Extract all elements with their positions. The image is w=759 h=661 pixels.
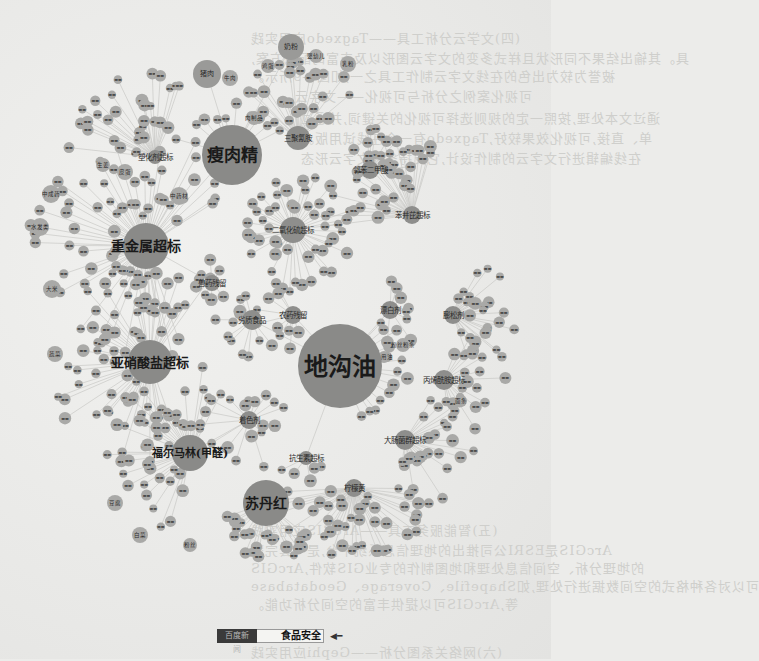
graph-leaf-label: ▬▬ (192, 155, 200, 160)
graph-leaf-label: ▬▬ (472, 301, 480, 306)
graph-leaf-label: ▬▬ (208, 441, 216, 446)
graph-leaf-label: ▬▬ (276, 128, 284, 133)
graph-leaf-label: ▬▬ (135, 300, 143, 305)
arrow-left-icon[interactable]: ◀━ (330, 629, 342, 643)
graph-leaf-label: ▬▬ (268, 343, 276, 348)
graph-leaf-label: ▬▬ (390, 195, 398, 200)
graph-leaf-label: ▬▬ (276, 333, 284, 338)
graph-leaf-label: ▬▬ (161, 425, 169, 430)
graph-leaf-label: ▬▬ (393, 328, 401, 333)
graph-leaf-label: ▬▬ (285, 328, 293, 333)
graph-leaf-label: ▬▬ (112, 109, 120, 114)
graph-leaf-label: ▬▬ (84, 127, 92, 132)
graph-leaf-label: ▬▬ (129, 397, 137, 402)
graph-leaf-label: ▬▬ (77, 326, 85, 331)
graph-leaf-label: ▬▬ (100, 181, 108, 186)
graph-leaf-label: ▬▬ (262, 393, 270, 398)
graph-leaf-label: ▬▬ (510, 327, 518, 332)
graph-leaf-label: ▬▬ (455, 296, 463, 301)
graph-leaf-label: ▬▬ (124, 373, 132, 378)
graph-leaf-label: ▬▬ (193, 122, 201, 127)
graph-leaf-label: ▬▬ (451, 408, 459, 413)
graph-leaf-label: ▬▬ (81, 281, 89, 286)
graph-leaf-label: ▬▬ (140, 389, 148, 394)
graph-leaf-label: ▬▬ (500, 310, 508, 315)
graph-leaf-label: ▬▬ (131, 179, 139, 184)
graph-leaf-label: ▬▬ (157, 73, 165, 78)
graph-leaf-label: ▬▬ (84, 119, 92, 124)
graph-leaf-label: ▬▬ (74, 368, 82, 373)
graph-leaf-label: ▬▬ (471, 426, 479, 431)
graph-leaf-label: ▬▬ (377, 134, 385, 139)
graph-leaf-label: ▬▬ (334, 523, 342, 528)
search-input[interactable]: 食品安全 (257, 629, 324, 643)
graph-leaf-label: ▬▬ (175, 83, 183, 88)
graph-leaf-label: ▬▬ (305, 254, 313, 259)
graph-leaf-label: ▬▬ (245, 232, 253, 237)
graph-leaf-label: ▬▬ (143, 462, 151, 467)
graph-leaf-label: ▬▬ (308, 279, 316, 284)
graph-leaf-label: ▬▬ (157, 524, 165, 529)
graph-leaf-label: ▬▬ (201, 117, 209, 122)
graph-leaf-label: ▬▬ (136, 418, 144, 423)
graph-node-label: 大米 (46, 285, 58, 293)
graph-leaf-label: ▬▬ (274, 291, 282, 296)
graph-leaf-label: ▬▬ (239, 352, 247, 357)
graph-leaf-label: ▬▬ (158, 168, 166, 173)
graph-leaf-label: ▬▬ (310, 106, 318, 111)
graph-leaf-label: ▬▬ (435, 405, 443, 410)
graph-leaf-label: ▬▬ (280, 405, 288, 410)
graph-leaf-label: ▬▬ (166, 203, 174, 208)
graph-hub-label: 农药残留 (279, 310, 307, 320)
graph-leaf-label: ▬▬ (372, 126, 380, 131)
graph-hub-label: 柠檬黄 (344, 483, 366, 493)
graph-leaf-label: ▬▬ (481, 400, 489, 405)
graph-leaf-label: ▬▬ (327, 489, 335, 494)
graph-leaf-label: ▬▬ (365, 153, 373, 158)
graph-leaf-label: ▬▬ (226, 397, 234, 402)
graph-hub-label: 着色剂 (239, 415, 260, 425)
graph-leaf-label: ▬▬ (241, 532, 249, 537)
graph-leaf-label: ▬▬ (298, 106, 306, 111)
graph-leaf-label: ▬▬ (372, 187, 380, 192)
graph-hub-label: 邻苯二甲酸 (353, 165, 389, 175)
graph-leaf-label: ▬▬ (415, 148, 423, 153)
graph-leaf-label: ▬▬ (316, 201, 324, 206)
graph-leaf-label: ▬▬ (84, 289, 92, 294)
graph-leaf-label: ▬▬ (383, 521, 391, 526)
graph-leaf-label: ▬▬ (399, 459, 407, 464)
graph-node-label: 白菜 (134, 531, 146, 539)
graph-leaf-label: ▬▬ (32, 240, 40, 245)
graph-leaf-label: ▬▬ (224, 334, 232, 339)
graph-leaf-label: ▬▬ (211, 181, 219, 186)
graph-leaf-label: ▬▬ (343, 217, 351, 222)
graph-leaf-label: ▬▬ (94, 112, 102, 117)
graph-leaf-label: ▬▬ (374, 215, 382, 220)
graph-hub-label: 亚硝酸盐超标 (111, 355, 189, 370)
graph-leaf-label: ▬▬ (395, 171, 403, 176)
graph-leaf-label: ▬▬ (319, 94, 327, 99)
graph-leaf-label: ▬▬ (498, 354, 506, 359)
graph-leaf-label: ▬▬ (101, 337, 109, 342)
graph-leaf-label: ▬▬ (92, 371, 100, 376)
graph-node-label: 中药材 (170, 192, 188, 200)
graph-leaf-label: ▬▬ (297, 68, 305, 73)
graph-leaf-label: ▬▬ (119, 205, 127, 210)
graph-leaf-label: ▬▬ (101, 281, 109, 286)
graph-leaf-label: ▬▬ (139, 213, 147, 218)
graph-leaf-label: ▬▬ (220, 294, 228, 299)
graph-leaf-label: ▬▬ (108, 92, 116, 97)
graph-leaf-label: ▬▬ (350, 147, 358, 152)
graph-leaf-label: ▬▬ (311, 466, 319, 471)
graph-leaf-label: ▬▬ (404, 376, 412, 381)
graph-leaf-label: ▬▬ (299, 178, 307, 183)
graph-leaf-label: ▬▬ (253, 209, 261, 214)
search-source-tab[interactable]: 百度新闻 (217, 629, 257, 643)
graph-leaf-label: ▬▬ (152, 415, 160, 420)
graph-leaf-label: ▬▬ (114, 77, 122, 82)
graph-leaf-label: ▬▬ (173, 412, 181, 417)
graph-leaf-label: ▬▬ (137, 335, 145, 340)
graph-leaf-label: ▬▬ (324, 116, 332, 121)
graph-leaf-label: ▬▬ (259, 109, 267, 114)
graph-leaf-label: ▬▬ (104, 117, 112, 122)
